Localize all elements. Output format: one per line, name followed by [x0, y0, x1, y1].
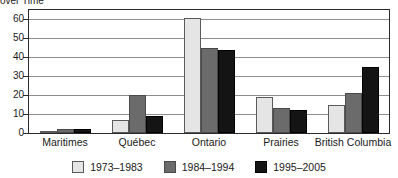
x-axis-category-label: Ontario [192, 136, 226, 149]
bar [328, 105, 345, 133]
bar [129, 95, 146, 133]
bar [57, 129, 74, 133]
x-axis-category-label: Maritimes [42, 136, 88, 149]
chart-title: over Time [0, 0, 44, 6]
bar [74, 129, 91, 133]
legend-label: 1995–2005 [273, 161, 326, 173]
chart-title-clip: over Time [0, 0, 398, 6]
bar-group [173, 10, 245, 133]
bar-group [29, 10, 101, 133]
legend-item[interactable]: 1995–2005 [255, 161, 326, 173]
legend-label: 1973–1983 [90, 161, 143, 173]
bar [256, 97, 273, 133]
bar-group [101, 10, 173, 133]
x-axis-labels: MaritimesQuébecOntarioPrairiesBritish Co… [28, 136, 390, 150]
bar [40, 131, 57, 133]
bar-chart: over Time 0102030405060 MaritimesQuébecO… [0, 0, 398, 178]
bar [362, 67, 379, 133]
bar [184, 18, 201, 133]
chart-legend: 1973–19831984–19941995–2005 [0, 158, 398, 176]
x-axis-category-label: Québec [119, 136, 156, 149]
y-axis: 0102030405060 [0, 9, 28, 134]
bar [218, 50, 235, 133]
legend-swatch-icon [164, 161, 176, 173]
bar [112, 120, 129, 133]
bar-group [245, 10, 317, 133]
legend-item[interactable]: 1984–1994 [164, 161, 235, 173]
legend-swatch-icon [72, 161, 84, 173]
bar [273, 108, 290, 133]
legend-item[interactable]: 1973–1983 [72, 161, 143, 173]
bar [345, 93, 362, 133]
x-axis-category-label: Prairies [263, 136, 299, 149]
legend-label: 1984–1994 [182, 161, 235, 173]
bar [146, 116, 163, 133]
bar [201, 48, 218, 133]
x-axis-category-label: British Columbia [315, 136, 391, 149]
bar [290, 110, 307, 133]
legend-swatch-icon [255, 161, 267, 173]
bar-group [317, 10, 389, 133]
bars-layer [29, 10, 389, 133]
